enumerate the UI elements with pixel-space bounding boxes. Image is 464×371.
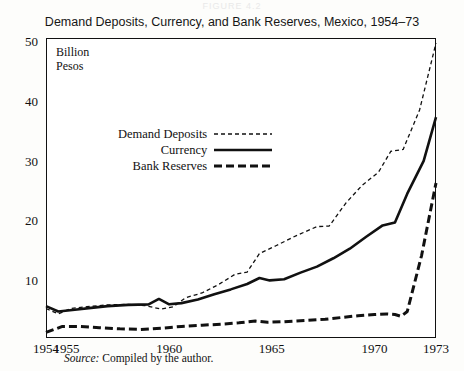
legend-label: Demand Deposits xyxy=(118,127,207,142)
figure-number: FIGURE 4.2 xyxy=(0,0,464,12)
y-tick-label-20: 20 xyxy=(4,213,38,229)
y-tick-label-40: 40 xyxy=(4,94,38,110)
series-lines xyxy=(46,38,436,338)
y-axis-unit-label: Billion Pesos xyxy=(56,45,89,73)
x-tick-label-1973: 1973 xyxy=(423,341,449,357)
series-line-bank-reserves xyxy=(46,183,436,333)
series-line-demand-deposits xyxy=(46,43,436,314)
figure-root: FIGURE 4.2 Demand Deposits, Currency, an… xyxy=(0,0,464,371)
legend-swatch-heavy-dashed xyxy=(214,161,272,171)
plot-area xyxy=(46,38,436,338)
y-tick-label-10: 10 xyxy=(4,273,38,289)
chart-title: Demand Deposits, Currency, and Bank Rese… xyxy=(0,15,464,29)
legend-label: Bank Reserves xyxy=(133,159,208,174)
x-tick-label-1970: 1970 xyxy=(361,341,387,357)
y-tick-label-30: 30 xyxy=(4,154,38,170)
x-tick-label-1965: 1965 xyxy=(259,341,285,357)
source-note: Source: Compiled by the author. xyxy=(64,352,213,364)
legend-swatch-solid xyxy=(214,145,272,155)
chart-legend: Demand DepositsCurrencyBank Reserves xyxy=(118,126,272,174)
source-text: Compiled by the author. xyxy=(102,352,213,364)
legend-item-bank-reserves: Bank Reserves xyxy=(118,158,272,174)
legend-label: Currency xyxy=(161,143,208,158)
y-axis-unit-line2: Pesos xyxy=(56,59,89,73)
y-tick-label-50: 50 xyxy=(4,34,38,50)
y-axis-unit-line1: Billion xyxy=(56,45,89,59)
legend-item-demand-deposits: Demand Deposits xyxy=(118,126,272,142)
legend-swatch-fine-dashed xyxy=(214,129,272,139)
source-prefix: Source: xyxy=(64,352,99,364)
legend-item-currency: Currency xyxy=(118,142,272,158)
